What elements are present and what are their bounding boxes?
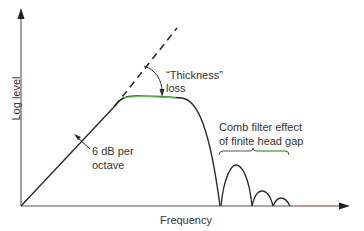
frequency-response-diagram [0,0,364,231]
x-axis-arrowhead-icon [339,203,350,210]
comb-lobe-2 [252,191,273,206]
x-axis-label: Frequency [160,214,212,227]
x-axis [21,203,350,210]
thickness-loss-arrow [144,66,162,92]
slope-annotation-line2: octave [92,159,124,172]
thickness-annotation-line1: “Thickness” [166,69,223,82]
comb-lobe-1 [221,165,252,206]
thickness-arrowhead-icon [160,89,165,97]
comb-annotation-line1: Comb filter effect [219,121,302,134]
y-axis-label: Log level [10,69,23,129]
comb-annotation-line2: of finite head gap [219,135,303,148]
y-axis-arrowhead-icon [18,8,25,19]
thickness-annotation-line2: loss [166,82,186,95]
comb-lobe-3 [273,198,290,206]
slope-annotation-line1: 6 dB per [92,145,134,158]
